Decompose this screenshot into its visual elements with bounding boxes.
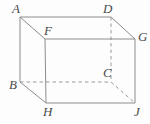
edge-A-F — [20, 17, 45, 39]
vertex-label-d: D — [103, 2, 112, 15]
vertex-label-h: H — [43, 105, 52, 118]
vertex-label-a: A — [12, 2, 20, 15]
edge-C-J — [111, 82, 135, 103]
geometry-figure: ADFGBCHJ — [0, 0, 150, 124]
edge-D-G — [111, 17, 135, 39]
edge-F-H — [45, 39, 46, 103]
edge-B-H — [20, 82, 46, 103]
cuboid-drawing — [0, 0, 150, 124]
vertex-label-c: C — [103, 66, 112, 79]
vertex-label-b: B — [9, 78, 17, 91]
vertex-label-j: J — [134, 105, 140, 118]
vertex-label-g: G — [138, 30, 147, 43]
edge-group — [20, 17, 135, 103]
vertex-label-f: F — [44, 24, 52, 37]
